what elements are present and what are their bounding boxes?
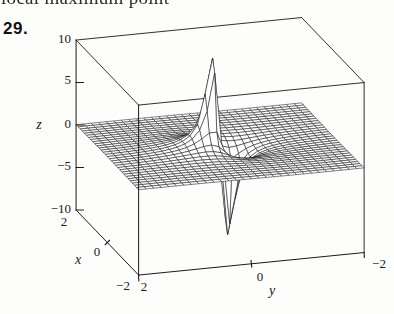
x-axis-label: x bbox=[75, 252, 81, 268]
x-tick-label-neg2: −2 bbox=[116, 278, 130, 294]
y-axis-label: y bbox=[269, 283, 275, 299]
y-tick-label-2: 2 bbox=[141, 279, 148, 295]
z-tick-label-10: 10 bbox=[58, 31, 71, 47]
y-tick-label-neg2: −2 bbox=[372, 256, 386, 272]
z-tick-label-0: 0 bbox=[65, 116, 72, 132]
x-tick-label-0: 0 bbox=[94, 244, 101, 260]
surface-plot-canvas bbox=[0, 0, 394, 314]
z-axis-label: z bbox=[36, 117, 41, 133]
z-tick-label-neg5: −5 bbox=[57, 158, 71, 174]
z-tick-label-5: 5 bbox=[65, 72, 72, 88]
x-tick-label-2: 2 bbox=[61, 214, 68, 230]
textbook-page: local maximum point 29. 10 5 0 −5 −10 z … bbox=[0, 0, 394, 314]
y-tick-label-0: 0 bbox=[257, 269, 264, 285]
